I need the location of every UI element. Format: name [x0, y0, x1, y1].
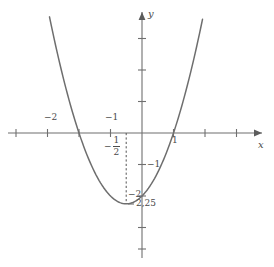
fraction-minus-one-half: − 1 2 — [104, 136, 120, 157]
x-tick-label-one: 1 — [172, 136, 178, 145]
x-label-minus-one-half: − 1 2 — [104, 136, 120, 157]
x-axis-arrow-icon — [254, 130, 262, 137]
x-tick-label-minus-1: −1 — [105, 113, 118, 122]
plot-canvas — [0, 0, 274, 267]
vertex-value-label: 2,25 — [136, 199, 156, 208]
parabola-curve — [50, 17, 203, 204]
x-tick-label-minus-2: −2 — [44, 113, 57, 122]
x-axis-name-label: x — [258, 140, 264, 150]
y-axis-name-label: y — [148, 9, 154, 19]
fraction-denominator: 2 — [113, 148, 121, 157]
fraction-minus-sign: − — [104, 142, 112, 151]
y-axis-arrow-icon — [139, 12, 146, 20]
fraction-stack: 1 2 — [113, 136, 121, 157]
parabola-figure: x y −2 −1 1 − 1 2 −1 −2 2,25 — [0, 0, 274, 267]
y-tick-label-minus-1: −1 — [147, 160, 160, 169]
fraction-numerator: 1 — [113, 136, 121, 145]
